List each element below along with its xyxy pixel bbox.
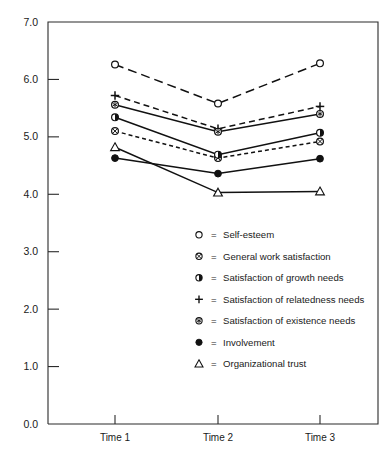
data-point-marker-half-filled-circle bbox=[112, 114, 119, 121]
y-axis-tick-label: 5.0 bbox=[23, 130, 38, 142]
legend-item-label: Satisfaction of relatedness needs bbox=[223, 294, 365, 305]
legend-item-label: Satisfaction of existence needs bbox=[223, 315, 355, 326]
line-chart: 0.01.02.03.04.05.06.07.0 Time 1Time 2Tim… bbox=[0, 0, 392, 457]
data-point-marker-circle-star bbox=[215, 128, 222, 135]
data-point-marker-circle-star bbox=[112, 101, 119, 108]
filled-circle-icon bbox=[317, 155, 324, 162]
legend-item-label: Organizational trust bbox=[223, 358, 307, 369]
x-axis-tick-label: Time 1 bbox=[100, 432, 131, 443]
data-point-marker-circle-star bbox=[196, 318, 202, 324]
y-axis-tick-label: 4.0 bbox=[23, 188, 38, 200]
data-point-marker-filled-circle bbox=[112, 155, 119, 162]
legend-equals: = bbox=[211, 229, 217, 240]
data-point-marker-filled-circle bbox=[215, 170, 222, 177]
legend-item: =General work satisfaction bbox=[196, 251, 331, 262]
y-axis-tick-label: 3.0 bbox=[23, 245, 38, 257]
data-point-marker-open-circle bbox=[215, 100, 222, 107]
y-axis-tick-label: 2.0 bbox=[23, 303, 38, 315]
legend-equals: = bbox=[211, 251, 217, 262]
data-point-marker-open-circle bbox=[196, 232, 202, 238]
legend-equals: = bbox=[211, 294, 217, 305]
legend-equals: = bbox=[211, 315, 217, 326]
data-point-marker-circle-cross bbox=[196, 253, 202, 259]
data-point-marker-circle-star bbox=[317, 110, 324, 117]
data-point-marker-filled-circle bbox=[196, 339, 202, 345]
y-axis-tick-label: 0.0 bbox=[23, 418, 38, 430]
data-point-marker-filled-circle bbox=[317, 155, 324, 162]
chart-container: 0.01.02.03.04.05.06.07.0 Time 1Time 2Tim… bbox=[0, 0, 392, 457]
legend-item-label: Self-esteem bbox=[223, 229, 274, 240]
filled-circle-icon bbox=[112, 155, 119, 162]
data-point-marker-open-circle bbox=[112, 61, 119, 68]
chart-background bbox=[0, 0, 392, 457]
data-point-marker-half-filled-circle bbox=[215, 151, 222, 158]
open-circle-icon bbox=[317, 60, 324, 67]
legend-equals: = bbox=[211, 358, 217, 369]
legend-equals: = bbox=[211, 337, 217, 348]
legend-item-label: General work satisfaction bbox=[223, 251, 331, 262]
legend-item: =Organizational trust bbox=[195, 358, 307, 369]
open-circle-icon bbox=[215, 100, 222, 107]
x-axis-tick-label: Time 3 bbox=[305, 432, 336, 443]
y-axis-tick-label: 6.0 bbox=[23, 73, 38, 85]
data-point-marker-open-circle bbox=[317, 60, 324, 67]
legend-equals: = bbox=[211, 272, 217, 283]
open-circle-icon bbox=[112, 61, 119, 68]
data-point-marker-half-filled-circle bbox=[317, 129, 324, 136]
x-axis-tick-label: Time 2 bbox=[203, 432, 234, 443]
data-point-marker-half-filled-circle bbox=[196, 275, 202, 281]
filled-circle-icon bbox=[196, 339, 202, 345]
open-circle-icon bbox=[196, 232, 202, 238]
data-point-marker-circle-cross bbox=[317, 138, 324, 145]
data-point-marker-circle-cross bbox=[112, 128, 119, 135]
legend-item-label: Satisfaction of growth needs bbox=[223, 272, 344, 283]
legend-item-label: Involvement bbox=[223, 337, 275, 348]
y-axis-tick-label: 7.0 bbox=[23, 16, 38, 28]
filled-circle-icon bbox=[215, 170, 222, 177]
y-axis-tick-label: 1.0 bbox=[23, 360, 38, 372]
